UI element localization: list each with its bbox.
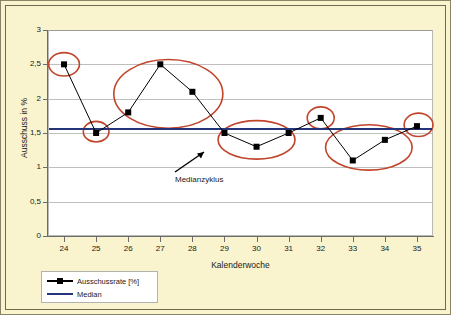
x-axis-tick bbox=[160, 237, 161, 242]
y-axis-tick bbox=[43, 133, 48, 134]
y-axis-tick bbox=[43, 202, 48, 203]
legend-label-ausschussrate: Ausschussrate [%] bbox=[77, 277, 139, 286]
x-axis-tick-label: 29 bbox=[212, 244, 236, 253]
x-axis-spine bbox=[47, 236, 434, 237]
y-axis-tick bbox=[43, 64, 48, 65]
gridline bbox=[49, 133, 432, 134]
x-axis-tick-label: 26 bbox=[116, 244, 140, 253]
x-axis-tick-label: 34 bbox=[373, 244, 397, 253]
x-axis-tick-label: 24 bbox=[52, 244, 76, 253]
x-axis-tick bbox=[417, 237, 418, 242]
legend-item-ausschussrate[interactable]: Ausschussrate [%] bbox=[47, 275, 157, 287]
x-axis-tick bbox=[257, 237, 258, 242]
legend-key-line-square-marker bbox=[47, 276, 73, 286]
chart-screenshot: 00,511,522,53242526272829303132333435 Me… bbox=[0, 0, 451, 315]
y-axis-tick bbox=[43, 167, 48, 168]
chart-legend: Ausschussrate [%] Median bbox=[41, 271, 158, 303]
x-axis-tick-label: 35 bbox=[405, 244, 429, 253]
x-axis-tick-label: 32 bbox=[309, 244, 333, 253]
y-axis-tick bbox=[43, 30, 48, 31]
x-axis-tick bbox=[96, 237, 97, 242]
legend-item-median[interactable]: Median bbox=[47, 288, 157, 300]
x-axis-tick-label: 30 bbox=[245, 244, 269, 253]
y-axis-tick-label: 3 bbox=[9, 26, 41, 34]
plot-area bbox=[48, 30, 433, 236]
medianzyklus-annotation-label: Medianzyklus bbox=[175, 175, 223, 184]
legend-key-line-solid bbox=[47, 289, 73, 299]
x-axis-tick bbox=[353, 237, 354, 242]
x-axis-tick-label: 28 bbox=[180, 244, 204, 253]
y-axis-tick bbox=[43, 99, 48, 100]
x-axis-tick bbox=[64, 237, 65, 242]
x-axis-tick bbox=[289, 237, 290, 242]
x-axis-tick bbox=[321, 237, 322, 242]
x-axis-tick bbox=[192, 237, 193, 242]
gridline bbox=[49, 64, 432, 65]
x-axis-tick-label: 25 bbox=[84, 244, 108, 253]
gridline bbox=[49, 99, 432, 100]
y-axis-title: Ausschuss in % bbox=[19, 53, 29, 203]
gridline bbox=[49, 202, 432, 203]
x-axis-title: Kalenderwoche bbox=[48, 260, 433, 270]
y-axis-tick-label: 0 bbox=[9, 232, 41, 240]
x-axis-tick-label: 31 bbox=[277, 244, 301, 253]
x-axis-tick bbox=[385, 237, 386, 242]
gridline bbox=[49, 167, 432, 168]
x-axis-tick bbox=[224, 237, 225, 242]
legend-label-median: Median bbox=[77, 290, 102, 299]
x-axis-tick-label: 33 bbox=[341, 244, 365, 253]
x-axis-tick-label: 27 bbox=[148, 244, 172, 253]
x-axis-tick bbox=[128, 237, 129, 242]
gridline bbox=[49, 30, 432, 31]
y-axis-tick bbox=[43, 236, 48, 237]
